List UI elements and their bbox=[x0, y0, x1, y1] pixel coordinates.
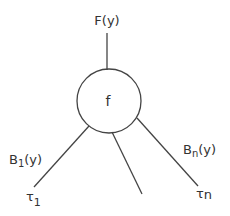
left-edge bbox=[34, 126, 89, 187]
node-label: f bbox=[106, 93, 112, 109]
right-leaf-label: τn bbox=[196, 186, 212, 202]
top-label: F(y) bbox=[94, 13, 119, 28]
tree-diagram: F(y) f B1(y) Bn(y) τ1 τn bbox=[0, 0, 230, 216]
middle-edge bbox=[112, 132, 142, 194]
left-leaf-label: τ1 bbox=[26, 189, 41, 209]
right-edge-label: Bn(y) bbox=[183, 142, 216, 159]
left-edge-label: B1(y) bbox=[9, 152, 42, 169]
